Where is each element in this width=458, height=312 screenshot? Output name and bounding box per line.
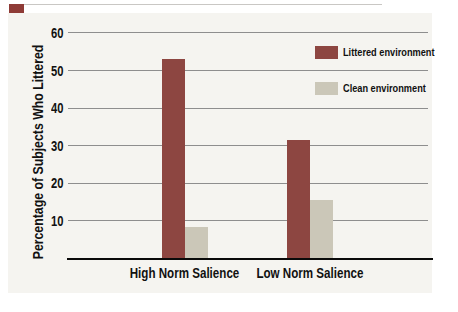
figure-top-rule [10,4,382,5]
bar-low-norm-salience-littered-environment [287,140,310,258]
y-tick-label-60: 60 [26,26,64,40]
y-tick-text: 20 [52,176,64,190]
y-axis-title-text: Percentage of Subjects Who Littered [29,45,46,260]
bar-high-norm-salience-clean-environment [185,227,208,259]
gridline-40 [68,108,428,109]
legend-label-littered-environment: Littered environment [343,46,457,59]
y-tick-text: 60 [52,26,64,40]
y-tick-text: 30 [52,139,64,153]
gridline-20 [68,183,428,184]
legend-swatch-clean-environment [315,82,338,95]
y-tick-text: 40 [52,101,64,115]
legend-label-clean-environment: Clean environment [343,82,447,95]
y-axis-title: Percentage of Subjects Who Littered [29,45,46,260]
y-tick-text: 50 [52,64,64,78]
x-axis-line [67,258,433,261]
gridline-50 [68,70,428,71]
gridline-10 [68,220,428,221]
bar-high-norm-salience-littered-environment [162,59,185,258]
y-tick-text: 10 [52,214,64,228]
gridline-30 [68,145,428,146]
bar-low-norm-salience-clean-environment [310,200,333,258]
legend-swatch-littered-environment [315,46,338,59]
figure-page: 102030405060 Percentage of Subjects Who … [0,0,458,312]
category-label-low-norm-salience: Low Norm Salience [225,265,395,281]
gridline-60 [68,32,428,33]
